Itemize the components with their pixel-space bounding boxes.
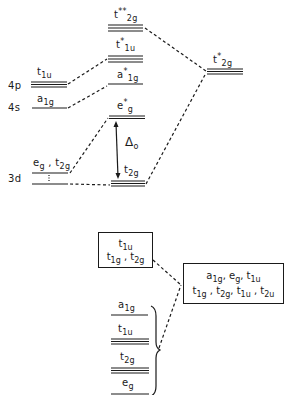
lower-label-t1u: t1u — [118, 324, 133, 334]
arrow-head-down — [116, 173, 121, 179]
label-ligand-t2g-star: t*2g — [213, 55, 232, 65]
mo-diagram-canvas — [0, 0, 294, 395]
level-t2g-double-star — [108, 25, 143, 31]
arrow-head-up — [114, 121, 119, 127]
label-3d: 3d — [8, 174, 21, 184]
right-box-line2: t1g , t2g, t1u , t2u — [184, 285, 283, 296]
label-4p: 4p — [8, 81, 21, 91]
label-4s: 4s — [8, 103, 20, 113]
label-eg-star: e*g — [117, 101, 133, 111]
grouping-brace — [151, 306, 160, 395]
label-t2g: t2g — [124, 165, 139, 175]
label-4p-symmetry: t1u — [37, 67, 52, 77]
level-ligand-t2g-star — [207, 69, 243, 74]
level-eg-star — [109, 116, 145, 119]
lower-level-t2g — [111, 368, 149, 373]
level-t2g — [111, 181, 145, 186]
label-3d-symmetry: eg , t2g — [33, 158, 70, 168]
level-3d — [32, 173, 68, 184]
level-t1u-star — [108, 56, 143, 62]
upper-box-line1: t1u — [99, 238, 152, 249]
label-t1u-star: t*1u — [116, 40, 135, 50]
right-box-line1: a1g, eg, t1u — [184, 270, 283, 281]
label-4s-symmetry: a1g — [37, 94, 54, 104]
upper-box-line2: t1g , t2g — [99, 251, 152, 262]
label-t2g-double-star: t**2g — [114, 10, 138, 20]
combined-symmetry-box: a1g, eg, t1u t1g , t2g, t1u , t2u — [183, 263, 284, 304]
lower-label-eg: eg — [122, 378, 134, 388]
upper-symmetry-box: t1u t1g , t2g — [98, 232, 153, 268]
lower-label-a1g: a1g — [118, 300, 135, 310]
lower-label-t2g: t2g — [120, 352, 135, 362]
label-a1g-star: a*1g — [117, 70, 139, 80]
label-delta-o: Δo — [125, 137, 139, 147]
lower-level-t1u — [111, 339, 149, 344]
level-4p-t1u — [31, 82, 67, 87]
delta-o-arrow — [116, 123, 118, 177]
